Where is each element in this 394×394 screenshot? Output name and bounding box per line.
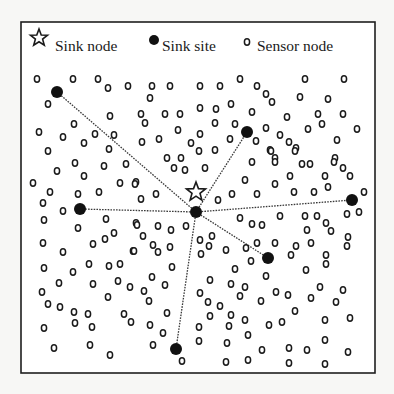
sensor-node bbox=[272, 240, 277, 246]
sensor-node bbox=[150, 342, 155, 348]
sensor-node bbox=[171, 165, 176, 171]
sensor-node bbox=[340, 287, 345, 293]
sensor-node bbox=[70, 76, 75, 82]
sensor-node bbox=[45, 101, 50, 107]
sensor-node bbox=[217, 303, 222, 309]
sensor-node bbox=[205, 299, 210, 305]
sensor-node bbox=[41, 325, 46, 331]
sensor-node bbox=[323, 252, 328, 258]
sensor-node bbox=[142, 120, 147, 126]
sensor-node bbox=[81, 140, 86, 146]
sensor-node bbox=[227, 136, 232, 142]
sensor-node bbox=[322, 361, 327, 367]
sensor-node bbox=[139, 139, 144, 145]
sensor-node bbox=[155, 249, 160, 255]
sensor-node bbox=[345, 234, 350, 240]
sensor-node bbox=[90, 241, 95, 247]
sensor-node bbox=[328, 228, 333, 234]
sensor-node bbox=[288, 252, 293, 258]
sensor-node bbox=[284, 114, 289, 120]
sensor-node bbox=[177, 111, 182, 117]
sensor-node bbox=[245, 332, 250, 338]
sensor-node bbox=[60, 134, 65, 140]
sensor-node bbox=[302, 213, 307, 219]
sensor-node bbox=[347, 173, 352, 179]
sensor-node bbox=[45, 301, 50, 307]
sensor-node bbox=[299, 161, 304, 167]
sensor-node bbox=[128, 319, 133, 325]
sensor-node bbox=[107, 113, 112, 119]
sensor-node bbox=[279, 319, 284, 325]
sensor-node bbox=[228, 312, 233, 318]
sensor-node bbox=[51, 345, 56, 351]
sensor-node bbox=[188, 140, 193, 146]
sensor-node bbox=[85, 311, 90, 317]
sensor-node bbox=[215, 197, 220, 203]
sensor-node bbox=[242, 284, 247, 290]
sensor-node bbox=[127, 284, 132, 290]
sensor-node bbox=[87, 342, 92, 348]
sensor-node bbox=[304, 347, 309, 353]
sensor-node bbox=[105, 85, 110, 91]
sensor-node bbox=[72, 320, 77, 326]
sensor-node bbox=[162, 282, 167, 288]
sensor-node bbox=[272, 181, 277, 187]
sensor-node bbox=[232, 266, 237, 272]
sensor-node bbox=[325, 184, 330, 190]
sensor-node bbox=[314, 213, 319, 219]
sensor-node bbox=[196, 148, 201, 154]
sensor-node bbox=[155, 223, 160, 229]
sensor-node bbox=[70, 269, 75, 275]
sensor-node bbox=[345, 349, 350, 355]
sensor-node bbox=[197, 83, 202, 89]
sensor-node bbox=[121, 311, 126, 317]
sensor-node bbox=[286, 360, 291, 366]
sensor-node bbox=[36, 129, 41, 135]
sensor-node bbox=[75, 225, 80, 231]
sensor-node bbox=[286, 345, 291, 351]
sensor-node bbox=[164, 310, 169, 316]
sensor-node bbox=[123, 161, 128, 167]
sensor-node bbox=[237, 293, 242, 299]
sensor-node bbox=[258, 298, 263, 304]
sensor-node bbox=[232, 121, 237, 127]
sensor-node bbox=[92, 131, 97, 137]
sensor-node bbox=[56, 280, 61, 286]
sensor-node bbox=[106, 263, 111, 269]
sensor-node bbox=[183, 223, 188, 229]
sensor-node bbox=[325, 96, 330, 102]
sensor-node bbox=[57, 304, 62, 310]
sensor-node bbox=[223, 247, 228, 253]
sensor-node bbox=[138, 196, 143, 202]
sensor-node bbox=[102, 236, 107, 242]
sensor-node bbox=[117, 261, 122, 267]
sensor-node bbox=[40, 200, 45, 206]
sensor-node bbox=[224, 340, 229, 346]
sensor-node bbox=[297, 94, 302, 100]
sensor-node bbox=[344, 211, 349, 217]
sensor-node bbox=[96, 189, 101, 195]
sensor-node bbox=[273, 289, 278, 295]
sensor-node bbox=[89, 324, 94, 330]
sensor-node bbox=[132, 181, 137, 187]
sensor-node bbox=[356, 209, 361, 215]
sensor-node bbox=[286, 139, 291, 145]
sensor-node bbox=[263, 273, 268, 279]
sensor-node bbox=[146, 298, 151, 304]
sensor-node bbox=[266, 322, 271, 328]
sensor-node bbox=[169, 264, 174, 270]
sensor-node bbox=[319, 121, 324, 127]
sensor-node bbox=[237, 76, 242, 82]
sensor-node bbox=[131, 248, 136, 254]
sensor-node bbox=[167, 244, 172, 250]
sensor-node bbox=[213, 106, 218, 112]
sensor-node bbox=[323, 261, 328, 267]
sensor-node bbox=[197, 290, 202, 296]
sensor-node bbox=[106, 146, 111, 152]
sensor-node bbox=[302, 76, 307, 82]
legend-item-sensor-node: Sensor node bbox=[244, 37, 333, 54]
sink-site-lower-right bbox=[262, 252, 274, 264]
sensor-node bbox=[254, 191, 259, 197]
sensor-node bbox=[147, 95, 152, 101]
sensor-node bbox=[340, 111, 345, 117]
